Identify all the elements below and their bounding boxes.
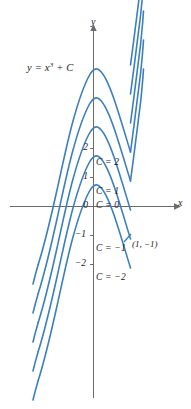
- y-tick-label-1: 1: [70, 172, 88, 182]
- curve-label-c-0: C = 0: [96, 201, 119, 211]
- y-tick-label-neg1: −1: [68, 230, 86, 240]
- curve-label-c-neg2: C = −2: [96, 273, 126, 283]
- axes-group: [10, 24, 181, 398]
- point-label-1-neg1: (1, −1): [132, 240, 158, 249]
- curve-lower-tails: [33, 265, 38, 401]
- curve-label-c-2: C = 2: [96, 158, 119, 168]
- curve-label-c-1: C = 1: [96, 187, 119, 197]
- curve-tail-c-neg2: [131, 69, 144, 181]
- y-tick-label-0: 0: [70, 201, 88, 211]
- curve-lowtail-c-neg2: [33, 381, 38, 401]
- curve-lowtail-c-1: [33, 294, 38, 314]
- y-tick-label-2: 2: [70, 143, 88, 153]
- curve-upper-tails: [131, 0, 144, 181]
- cubic-family-figure: y = x3 + C y x 2 1 0 −1 −2 C = 2 C = 1 C…: [0, 0, 191, 409]
- equation-label: y = x3 + C: [27, 63, 74, 74]
- curve-family: [38, 69, 130, 381]
- y-tick-label-neg2: −2: [68, 259, 86, 269]
- equation-lhs: y = x: [27, 62, 50, 73]
- curve-label-c-neg1: C = −1: [96, 244, 126, 254]
- x-axis-label: x: [178, 198, 182, 208]
- curve-lowtail-c-0: [33, 323, 38, 343]
- curve-lowtail-c-neg1: [33, 352, 38, 372]
- y-axis-label: y: [91, 17, 95, 27]
- equation-rhs: + C: [53, 62, 73, 73]
- curve-lowtail-c-2: [33, 265, 38, 285]
